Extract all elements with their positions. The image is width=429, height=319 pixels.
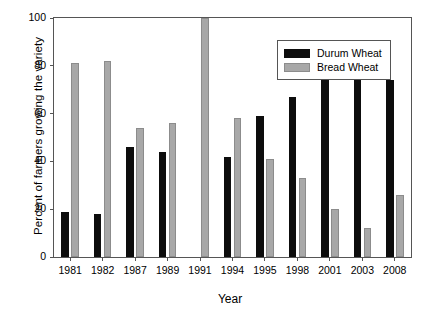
x-tick-mark — [297, 257, 298, 261]
legend-swatch-bread — [284, 63, 310, 72]
bar-durum-1998 — [289, 97, 297, 257]
x-tick-mark — [167, 257, 168, 261]
bar-bread-1981 — [71, 63, 79, 257]
y-tick-label: 100 — [28, 11, 46, 23]
legend-label: Bread Wheat — [317, 61, 378, 73]
x-tick-mark — [329, 257, 330, 261]
bar-durum-1982 — [94, 214, 102, 257]
y-tick-label: 0 — [40, 250, 46, 262]
y-tick-mark — [50, 113, 54, 114]
x-tick-label: 2008 — [373, 264, 417, 276]
x-tick-mark — [362, 257, 363, 261]
bar-durum-2001 — [321, 66, 329, 257]
bar-bread-1995 — [266, 159, 274, 257]
y-tick-mark — [50, 161, 54, 162]
bar-bread-1987 — [136, 128, 144, 257]
x-tick-mark — [264, 257, 265, 261]
y-tick-mark — [50, 18, 54, 19]
bar-durum-1989 — [159, 152, 167, 257]
bar-durum-2008 — [386, 80, 394, 257]
y-axis-title: Percent of farmers growing the variety — [32, 16, 44, 256]
y-tick-label: 40 — [34, 154, 46, 166]
x-axis-title: Year — [50, 292, 410, 306]
bar-durum-1994 — [224, 157, 232, 257]
x-tick-mark — [200, 257, 201, 261]
plot-frame: 020406080100 198119821987198919911994199… — [53, 17, 412, 258]
bar-bread-1994 — [234, 118, 242, 257]
bar-chart-figure: Percent of farmers growing the variety 0… — [0, 0, 429, 319]
bar-bread-2008 — [396, 195, 404, 257]
y-tick-mark — [50, 65, 54, 66]
bar-durum-1981 — [61, 212, 69, 257]
bar-bread-1989 — [169, 123, 177, 257]
legend-item-bread: Bread Wheat — [284, 60, 382, 74]
bar-bread-1982 — [104, 61, 112, 257]
legend-label: Durum Wheat — [317, 47, 382, 59]
chart-legend: Durum WheatBread Wheat — [277, 40, 391, 80]
bar-bread-1991 — [201, 18, 209, 257]
x-tick-mark — [135, 257, 136, 261]
y-tick-label: 20 — [34, 202, 46, 214]
y-tick-mark — [50, 209, 54, 210]
bar-durum-1987 — [126, 147, 134, 257]
x-tick-mark — [102, 257, 103, 261]
legend-swatch-durum — [284, 49, 310, 58]
legend-item-durum: Durum Wheat — [284, 46, 382, 60]
bar-bread-2001 — [331, 209, 339, 257]
y-tick-label: 80 — [34, 59, 46, 71]
x-tick-mark — [70, 257, 71, 261]
x-tick-mark — [232, 257, 233, 261]
bar-durum-1995 — [256, 116, 264, 257]
y-tick-mark — [50, 257, 54, 258]
bar-bread-1998 — [299, 178, 307, 257]
x-tick-mark — [394, 257, 395, 261]
bar-durum-2003 — [354, 49, 362, 257]
y-tick-label: 60 — [34, 107, 46, 119]
bar-bread-2003 — [364, 228, 372, 257]
